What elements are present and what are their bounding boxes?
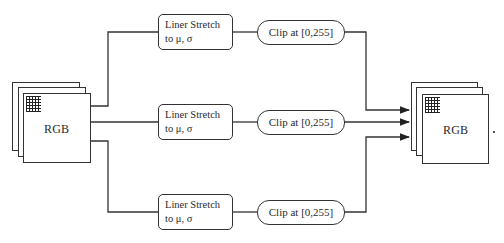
- linear-stretch-box-1: Liner Stretch to μ, σ: [158, 14, 233, 50]
- stretch-label-line2: to μ, σ: [165, 122, 232, 136]
- stretch-label-line1: Liner Stretch: [165, 108, 232, 122]
- clip-box-3: Clip at [0,255]: [257, 200, 345, 225]
- linear-stretch-box-2: Liner Stretch to μ, σ: [158, 104, 233, 140]
- pixel-grid-icon: [26, 96, 41, 112]
- clip-box-1: Clip at [0,255]: [257, 20, 345, 45]
- stretch-label-line1: Liner Stretch: [165, 18, 232, 32]
- output-rgb-label: RGB: [443, 123, 468, 138]
- stray-dot: [493, 131, 495, 133]
- input-sheet-front: RGB: [23, 93, 91, 163]
- output-sheet-front: RGB: [422, 94, 489, 164]
- stretch-label-line2: to μ, σ: [165, 32, 232, 46]
- input-rgb-label: RGB: [44, 122, 69, 137]
- clip-box-2: Clip at [0,255]: [257, 110, 345, 135]
- pixel-grid-icon: [425, 97, 440, 113]
- stretch-label-line1: Liner Stretch: [165, 198, 232, 212]
- stretch-label-line2: to μ, σ: [165, 212, 232, 226]
- linear-stretch-box-3: Liner Stretch to μ, σ: [158, 194, 233, 230]
